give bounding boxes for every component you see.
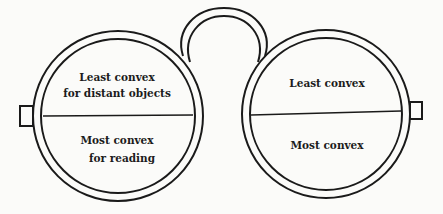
right-hinge-tab [410,102,422,119]
left-hinge-tab [20,106,33,126]
bridge [181,8,267,62]
left-lens-bifocal-divider [43,115,193,116]
right-lens: Least convex Most convex [242,30,422,198]
right-lower-label: Most convex [290,139,364,151]
left-upper-label-line1: Least convex [79,71,155,83]
spectacles-diagram: Least convex for distant objects Most co… [0,0,443,214]
left-upper-label-line2: for distant objects [63,87,171,99]
right-upper-label: Least convex [289,77,365,89]
left-lens: Least convex for distant objects Most co… [20,31,203,201]
left-lower-label-line2: for reading [89,152,156,164]
right-lens-bifocal-divider [251,111,401,115]
left-lower-label-line1: Most convex [80,134,154,146]
